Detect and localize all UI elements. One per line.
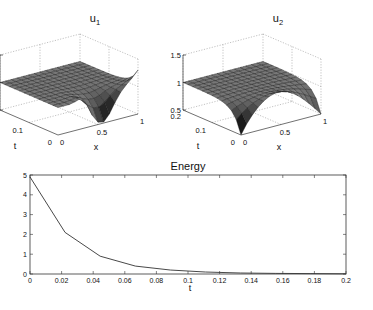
z-tick-label: 1	[177, 79, 181, 88]
t-tick-label: 0.2	[171, 112, 181, 121]
x-tick-label: 0.06	[118, 277, 132, 284]
x-axis-label: x	[277, 142, 282, 152]
x-tick-label: 0.02	[55, 277, 69, 284]
x-tick-label: 0.5	[280, 128, 290, 137]
x-tick-label: 0.12	[213, 277, 227, 284]
x-tick-label: 0.08	[150, 277, 164, 284]
plot-title: u2	[273, 12, 283, 27]
x-tick-label: 0	[60, 138, 64, 147]
plot-title: Energy	[171, 160, 206, 172]
surface-plot-u1: 0.511.50.20.1000.51txu1	[0, 12, 144, 152]
x-tick-label: 0	[243, 138, 247, 147]
x-tick-label: 0	[28, 277, 32, 284]
x-tick-label: 0.14	[244, 277, 258, 284]
energy-plot: 00.020.040.060.080.10.120.140.160.180.20…	[23, 160, 351, 293]
x-tick-label: 0.5	[97, 128, 107, 137]
y-tick-label: 1	[23, 251, 27, 258]
y-tick-label: 4	[23, 191, 27, 198]
x-tick-label: 0.2	[341, 277, 351, 284]
x-axis-label: x	[94, 142, 99, 152]
y-tick-label: 5	[23, 172, 27, 179]
t-tick-label: 0	[48, 138, 52, 147]
t-tick-label: 0.1	[13, 126, 23, 135]
t-tick-label: 0	[231, 138, 235, 147]
x-tick-label: 1	[323, 117, 327, 126]
y-tick-label: 2	[23, 231, 27, 238]
z-tick-label: 1.5	[171, 51, 181, 60]
energy-line	[30, 177, 346, 274]
t-axis-label: t	[197, 141, 200, 151]
y-tick-label: 3	[23, 211, 27, 218]
surface-plot-u2: 0.511.50.20.1000.51txu2	[171, 12, 328, 152]
x-tick-label: 0.16	[276, 277, 290, 284]
x-tick-label: 0.18	[308, 277, 322, 284]
x-tick-label: 0.04	[86, 277, 100, 284]
x-axis-label: t	[189, 283, 192, 293]
plot-area	[30, 175, 346, 274]
x-tick-label: 1	[140, 117, 144, 126]
plot-title: u1	[90, 12, 100, 27]
y-tick-label: 0	[23, 271, 27, 278]
figure: 0.511.50.20.1000.51txu10.511.50.20.1000.…	[0, 0, 373, 310]
t-axis-label: t	[14, 141, 17, 151]
t-tick-label: 0.1	[196, 126, 206, 135]
